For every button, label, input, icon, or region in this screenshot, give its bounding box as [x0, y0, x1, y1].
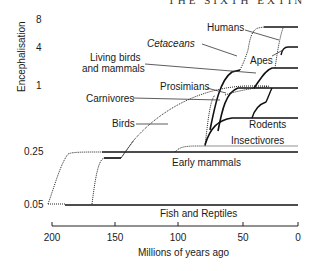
label-birds: Birds: [112, 118, 135, 129]
label-rodents: Rodents: [249, 119, 286, 130]
x-axis-ticks: [52, 222, 298, 226]
y-tick-4: 4: [36, 42, 42, 53]
y-tick-0-25: 0.25: [24, 146, 43, 157]
x-tick-50: 50: [237, 232, 248, 243]
label-prosimians: Prosimians: [160, 81, 209, 92]
series-apes-base: [254, 68, 298, 88]
y-axis-label: Encephalisation: [16, 21, 27, 92]
label-early-mammals: Early mammals: [172, 157, 241, 168]
label-and-mammals: and mammals: [82, 63, 145, 74]
x-axis-label: Millions of years ago: [138, 247, 229, 258]
label-living-birds: Living birds: [90, 52, 141, 63]
label-carnivores: Carnivores: [86, 93, 134, 104]
series-birds-dotted-start: [92, 140, 134, 204]
label-cetaceans: Cetaceans: [147, 38, 195, 49]
y-tick-1: 1: [36, 80, 42, 91]
label-apes: Apes: [250, 55, 273, 66]
series-birds: [121, 86, 268, 158]
series-insectivores: [175, 146, 298, 152]
series-early-mammals-dotted: [48, 152, 102, 204]
y-tick-0-05: 0.05: [24, 199, 43, 210]
series-humans: [275, 28, 283, 68]
x-tick-0: 0: [295, 232, 301, 243]
y-tick-8: 8: [36, 14, 42, 25]
label-humans: Humans: [207, 22, 244, 33]
x-tick-100: 100: [170, 232, 187, 243]
label-fish-reptiles: Fish and Reptiles: [160, 208, 237, 219]
label-insectivores: Insectivores: [231, 135, 284, 146]
series-rodents-branch: [252, 88, 272, 118]
x-tick-150: 150: [107, 232, 124, 243]
series-apes: [281, 47, 298, 55]
x-tick-200: 200: [44, 232, 61, 243]
